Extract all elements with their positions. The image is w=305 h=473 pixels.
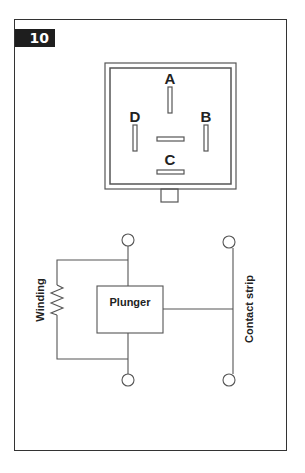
terminal-bottom-right: [223, 374, 235, 386]
diagram-canvas: A D B C Plunger Winding Contact strip: [0, 0, 305, 473]
pin-label-c: C: [165, 151, 176, 168]
plunger-box: [97, 286, 163, 333]
pin-label-d: D: [130, 108, 141, 125]
pin-d: [133, 125, 137, 151]
pin-a: [168, 87, 172, 113]
terminal-top-right: [223, 236, 235, 248]
terminal-top-left: [122, 234, 134, 246]
relay-schematic: [51, 234, 235, 386]
winding-resistor: [51, 285, 63, 315]
contact-strip-label: Contact strip: [243, 275, 255, 343]
terminal-bottom-left: [122, 374, 134, 386]
pin-b: [204, 125, 208, 151]
pin-label-b: B: [201, 108, 212, 125]
pin-center: [157, 137, 184, 141]
pin-label-a: A: [165, 70, 176, 87]
pin-c: [157, 170, 184, 174]
winding-label: Winding: [34, 278, 46, 321]
plunger-label: Plunger: [110, 296, 152, 308]
